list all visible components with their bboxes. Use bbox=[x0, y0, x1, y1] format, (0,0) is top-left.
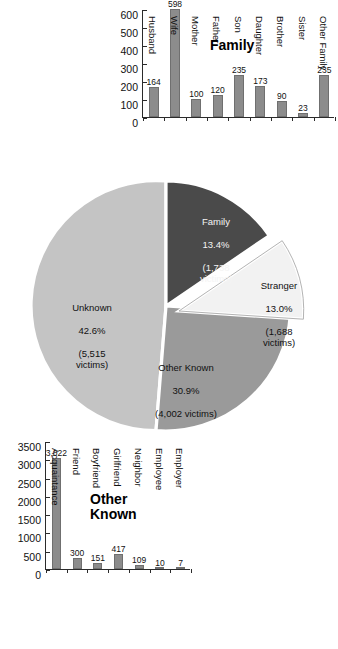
x-axis-tick-mark bbox=[170, 569, 171, 573]
x-axis-category-label: Acquaintance bbox=[50, 448, 60, 506]
family-chart-title: Family bbox=[210, 38, 254, 53]
bar[interactable] bbox=[149, 87, 159, 117]
pie-label-unknown: Unknown 42.6% (5,515 victims) bbox=[50, 290, 134, 382]
x-axis-category-label: Girlfriend bbox=[112, 448, 122, 487]
x-axis-category-label: Mother bbox=[190, 16, 200, 46]
bar[interactable] bbox=[73, 558, 82, 569]
bar[interactable] bbox=[234, 75, 244, 117]
x-axis-tick-mark bbox=[191, 569, 192, 573]
x-axis-tick-mark bbox=[46, 569, 47, 573]
pie-label-other-known: Other Known 30.9% (4,002 victims) bbox=[128, 350, 244, 431]
relationship-pie-chart: Family 13.4% (1,738 victims) Stranger 13… bbox=[0, 178, 338, 440]
y-axis-tick-label: 500 bbox=[23, 552, 46, 562]
bar[interactable] bbox=[93, 563, 102, 569]
x-axis-category-label: Employee bbox=[154, 448, 164, 490]
x-axis-tick-mark bbox=[143, 117, 144, 121]
bar[interactable] bbox=[255, 86, 265, 117]
y-axis-tick-label: 300 bbox=[120, 64, 143, 74]
x-axis-category-label: Neighbor bbox=[133, 448, 143, 487]
x-axis-category-label: Sister bbox=[297, 16, 307, 40]
x-axis-tick-mark bbox=[292, 117, 293, 121]
pie-label-stranger-percent: 13.0% bbox=[237, 303, 321, 315]
x-axis-tick-mark bbox=[228, 117, 229, 121]
x-axis-tick-mark bbox=[207, 117, 208, 121]
x-axis-category-label: Employer bbox=[174, 448, 184, 488]
bar-value-label: 120 bbox=[211, 86, 225, 95]
bar-value-label: 151 bbox=[91, 554, 105, 563]
y-axis-tick-mark bbox=[143, 100, 147, 101]
x-axis-tick-mark bbox=[314, 117, 315, 121]
bar-value-label: 23 bbox=[298, 104, 307, 113]
x-axis-category-label: Son bbox=[233, 16, 243, 33]
bar-value-label: 10 bbox=[155, 559, 164, 568]
x-axis-tick-mark bbox=[271, 117, 272, 121]
bar-value-label: 417 bbox=[111, 545, 125, 554]
x-axis-tick-mark bbox=[250, 117, 251, 121]
pie-label-family-name: Family bbox=[178, 216, 254, 228]
pie-label-stranger-name: Stranger bbox=[237, 280, 321, 292]
x-axis-tick-mark bbox=[186, 117, 187, 121]
bar-value-label: 173 bbox=[253, 77, 267, 86]
x-axis-category-label: Brother bbox=[275, 16, 285, 47]
pie-label-unknown-percent: 42.6% bbox=[50, 325, 134, 337]
bar[interactable] bbox=[298, 113, 308, 117]
bar-value-label: 7 bbox=[178, 559, 183, 568]
x-axis-category-label: Husband bbox=[147, 16, 157, 54]
x-axis-tick-mark bbox=[335, 117, 336, 121]
bar[interactable] bbox=[319, 75, 329, 117]
y-axis-tick-label: 0 bbox=[35, 570, 46, 580]
pie-label-stranger: Stranger 13.0% (1,688 victims) bbox=[237, 268, 321, 360]
x-axis-category-label: Boyfriend bbox=[91, 448, 101, 488]
bar[interactable] bbox=[114, 554, 123, 569]
pie-label-family-percent: 13.4% bbox=[178, 239, 254, 251]
y-axis-tick-label: 1000 bbox=[18, 533, 46, 543]
bar-value-label: 235 bbox=[232, 66, 246, 75]
x-axis-tick-mark bbox=[67, 569, 68, 573]
y-axis-tick-label: 2000 bbox=[18, 497, 46, 507]
bar-value-label: 90 bbox=[277, 92, 286, 101]
pie-label-stranger-victims: (1,688 victims) bbox=[237, 326, 321, 349]
other-known-bar-chart: 05001000150020002500300035003,022Acquain… bbox=[0, 438, 210, 649]
bar[interactable] bbox=[277, 101, 287, 117]
pie-label-other-known-name: Other Known bbox=[128, 362, 244, 374]
bar-value-label: 109 bbox=[132, 556, 146, 565]
bar[interactable] bbox=[191, 99, 201, 117]
y-axis-tick-label: 0 bbox=[132, 118, 143, 128]
y-axis-tick-label: 500 bbox=[120, 28, 143, 38]
y-axis-tick-mark bbox=[46, 552, 50, 553]
bar[interactable] bbox=[213, 95, 223, 117]
family-bar-chart: 0100200300400500600164Husband598Wife100M… bbox=[112, 6, 338, 174]
pie-label-other-known-percent: 30.9% bbox=[128, 385, 244, 397]
x-axis-tick-mark bbox=[150, 569, 151, 573]
y-axis-tick-mark bbox=[46, 533, 50, 534]
y-axis-tick-mark bbox=[46, 442, 50, 443]
x-axis-tick-mark bbox=[108, 569, 109, 573]
bar-value-label: 164 bbox=[147, 78, 161, 87]
y-axis-tick-mark bbox=[143, 64, 147, 65]
y-axis-tick-mark bbox=[46, 515, 50, 516]
x-axis-tick-mark bbox=[164, 117, 165, 121]
x-axis-category-label: Other Family bbox=[318, 16, 328, 70]
x-axis-category-label: Wife bbox=[169, 16, 179, 35]
y-axis-tick-mark bbox=[143, 10, 147, 11]
other-known-chart-title: Other Known bbox=[90, 492, 137, 522]
pie-label-other-known-victims: (4,002 victims) bbox=[128, 408, 244, 420]
x-axis-tick-mark bbox=[87, 569, 88, 573]
pie-label-unknown-name: Unknown bbox=[50, 302, 134, 314]
y-axis-tick-label: 3500 bbox=[18, 442, 46, 452]
x-axis-category-label: Daughter bbox=[254, 16, 264, 55]
family-plot-area: 0100200300400500600164Husband598Wife100M… bbox=[142, 10, 334, 118]
bar-value-label: 300 bbox=[70, 549, 84, 558]
bar-value-label: 598 bbox=[168, 0, 182, 9]
bar-value-label: 100 bbox=[189, 90, 203, 99]
x-axis-tick-mark bbox=[129, 569, 130, 573]
y-axis-tick-label: 1500 bbox=[18, 515, 46, 525]
y-axis-tick-label: 400 bbox=[120, 46, 143, 56]
y-axis-tick-label: 200 bbox=[120, 82, 143, 92]
y-axis-tick-label: 100 bbox=[120, 100, 143, 110]
y-axis-tick-label: 2500 bbox=[18, 479, 46, 489]
y-axis-tick-label: 3000 bbox=[18, 460, 46, 470]
pie-label-unknown-victims: (5,515 victims) bbox=[50, 348, 134, 371]
y-axis-tick-label: 600 bbox=[120, 10, 143, 20]
bar[interactable] bbox=[135, 565, 144, 569]
